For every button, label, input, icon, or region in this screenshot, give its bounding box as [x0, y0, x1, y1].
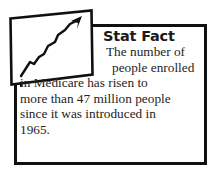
body-line: 1965.: [20, 122, 202, 138]
callout-body: The number of people enrolled in Medicar…: [20, 44, 202, 138]
callout-title: Stat Fact: [103, 28, 202, 44]
body-line: people enrolled: [112, 60, 202, 76]
body-line: since it was introduced in: [20, 106, 202, 122]
body-line: more than 47 million people: [20, 91, 202, 107]
body-line: in Medicare has risen to: [20, 75, 202, 91]
stat-fact-callout: Stat Fact The number of people enrolled …: [0, 0, 220, 174]
callout-text-block: Stat Fact The number of people enrolled …: [20, 28, 202, 138]
body-line: The number of: [106, 44, 202, 60]
